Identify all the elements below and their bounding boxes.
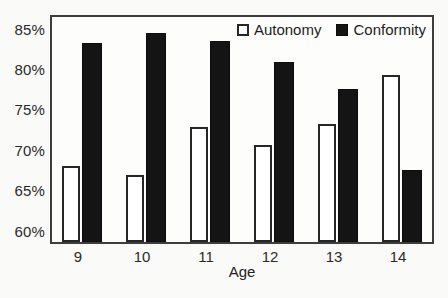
autonomy-swatch-icon xyxy=(237,24,249,36)
bar-autonomy-age-12 xyxy=(254,145,272,242)
y-tick-60: 60% xyxy=(0,224,45,240)
x-axis-title: Age xyxy=(50,263,434,280)
y-tick-80: 80% xyxy=(0,62,45,78)
y-tick-85: 85% xyxy=(0,22,45,38)
bar-autonomy-age-9 xyxy=(62,166,80,242)
legend-label-autonomy: Autonomy xyxy=(254,21,322,38)
bar-conformity-age-12 xyxy=(274,62,294,242)
legend-item-conformity: Conformity xyxy=(336,21,426,38)
bar-chart-figure: 60%65%70%75%80%85% 91011121314 Age Auton… xyxy=(0,0,448,298)
bar-autonomy-age-13 xyxy=(318,124,336,242)
y-tick-65: 65% xyxy=(0,183,45,199)
legend-label-conformity: Conformity xyxy=(353,21,426,38)
bar-conformity-age-13 xyxy=(338,89,358,242)
legend-item-autonomy: Autonomy xyxy=(237,21,322,38)
y-tick-75: 75% xyxy=(0,102,45,118)
bar-conformity-age-10 xyxy=(146,33,166,242)
bar-autonomy-age-11 xyxy=(190,127,208,242)
bar-conformity-age-9 xyxy=(82,43,102,242)
plot-area xyxy=(50,15,434,244)
y-tick-70: 70% xyxy=(0,143,45,159)
bar-autonomy-age-10 xyxy=(126,175,144,242)
conformity-swatch-icon xyxy=(336,24,348,36)
legend: Autonomy Conformity xyxy=(237,21,426,38)
bar-conformity-age-14 xyxy=(402,170,422,242)
bar-conformity-age-11 xyxy=(210,41,230,242)
bar-autonomy-age-14 xyxy=(382,75,400,242)
